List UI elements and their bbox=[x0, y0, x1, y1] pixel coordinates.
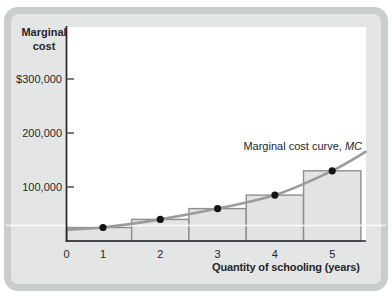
bar-year-4 bbox=[246, 195, 303, 241]
x-tick-label-4: 4 bbox=[264, 247, 286, 261]
y-tick-label-100000: 100,000 bbox=[2, 180, 62, 194]
y-axis-title: Marginal cost bbox=[20, 25, 68, 53]
data-point-year-3 bbox=[214, 205, 221, 212]
data-point-year-4 bbox=[271, 192, 278, 199]
screenshot-root: { "figure": { "y_axis_title": "Marginal\… bbox=[0, 0, 392, 297]
x-tick-label-1: 1 bbox=[92, 247, 114, 261]
x-tick-label-3: 3 bbox=[207, 247, 229, 261]
y-tick-label-200000: 200,000 bbox=[2, 126, 62, 140]
x-tick-label-2: 2 bbox=[149, 247, 171, 261]
curve-label: Marginal cost curve, MC bbox=[243, 139, 362, 153]
data-point-year-5 bbox=[329, 167, 336, 174]
x-tick-label-0: 0 bbox=[56, 247, 78, 261]
curve-label-mc: MC bbox=[345, 140, 362, 152]
data-point-year-1 bbox=[99, 224, 106, 231]
y-tick-label-300000: $300,000 bbox=[2, 72, 62, 86]
curve-label-text: Marginal cost curve, bbox=[243, 140, 344, 152]
data-point-year-2 bbox=[157, 216, 164, 223]
x-tick-label-5: 5 bbox=[321, 247, 343, 261]
x-axis-title: Quantity of schooling (years) bbox=[212, 260, 360, 274]
